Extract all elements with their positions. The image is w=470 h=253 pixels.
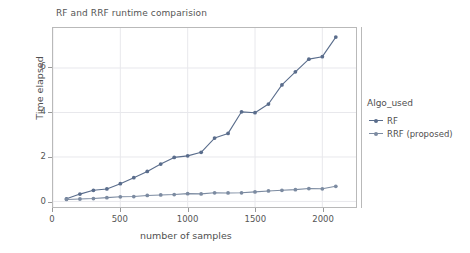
- legend-entry-0[interactable]: RF: [369, 114, 453, 127]
- data-point: [172, 193, 176, 197]
- data-point: [78, 197, 82, 201]
- legend-marker-icon: [369, 116, 383, 126]
- legend-title: Algo_used: [367, 98, 453, 108]
- chart-title: RF and RRF runtime comparision: [56, 8, 207, 18]
- legend-marker-icon: [369, 129, 383, 139]
- x-tick-label: 1500: [235, 214, 275, 224]
- plot-area: [52, 27, 357, 208]
- data-point: [145, 194, 149, 198]
- data-point: [105, 187, 109, 191]
- x-tick-mark: [323, 208, 324, 212]
- x-tick-mark: [52, 208, 53, 212]
- y-tick-mark: [48, 112, 52, 113]
- data-point: [145, 170, 149, 174]
- chart-figure: RF and RRF runtime comparision Time elap…: [0, 0, 470, 253]
- x-tick-label: 1000: [168, 214, 208, 224]
- legend-divider: [361, 27, 362, 208]
- legend: Algo_used RFRRF (proposed): [367, 98, 453, 140]
- legend-label: RF: [387, 116, 398, 126]
- legend-entry-1[interactable]: RRF (proposed): [369, 127, 453, 140]
- data-point: [118, 182, 122, 186]
- data-point: [294, 70, 298, 74]
- y-axis-label: Time elapsed: [34, 38, 45, 138]
- data-point: [280, 188, 284, 192]
- data-point: [334, 184, 338, 188]
- y-tick-mark: [48, 157, 52, 158]
- data-point: [118, 195, 122, 199]
- data-point: [186, 154, 190, 158]
- data-point: [199, 192, 203, 196]
- y-tick-mark: [48, 67, 52, 68]
- x-tick-label: 500: [100, 214, 140, 224]
- data-point: [240, 110, 244, 114]
- data-point: [199, 150, 203, 154]
- data-point: [294, 188, 298, 192]
- x-tick-label: 0: [32, 214, 72, 224]
- data-point: [334, 35, 338, 39]
- data-point: [159, 162, 163, 166]
- plot-canvas: [53, 28, 356, 207]
- data-point: [307, 57, 311, 61]
- data-point: [307, 187, 311, 191]
- legend-label: RRF (proposed): [387, 129, 453, 139]
- data-point: [320, 55, 324, 59]
- data-point: [226, 191, 230, 195]
- data-point: [186, 192, 190, 196]
- x-axis-label: number of samples: [140, 230, 232, 241]
- legend-entries: RFRRF (proposed): [367, 114, 453, 140]
- data-point: [132, 176, 136, 180]
- x-tick-label: 2000: [303, 214, 343, 224]
- y-tick-label: 4: [24, 106, 46, 116]
- data-point: [92, 188, 96, 192]
- data-point: [253, 111, 257, 115]
- y-tick-mark: [48, 202, 52, 203]
- data-point: [172, 156, 176, 160]
- gridlines: [53, 28, 356, 207]
- data-point: [92, 197, 96, 201]
- data-point: [267, 189, 271, 193]
- data-point: [132, 195, 136, 199]
- y-tick-label: 6: [24, 61, 46, 71]
- x-tick-mark: [120, 208, 121, 212]
- series-line-0: [66, 37, 335, 199]
- data-point: [240, 191, 244, 195]
- data-point: [267, 102, 271, 106]
- data-point: [213, 136, 217, 140]
- y-tick-label: 0: [24, 196, 46, 206]
- data-point: [280, 83, 284, 87]
- data-point: [253, 190, 257, 194]
- y-tick-label: 2: [24, 151, 46, 161]
- data-point: [320, 187, 324, 191]
- data-point: [65, 198, 69, 202]
- data-point: [213, 191, 217, 195]
- x-tick-mark: [255, 208, 256, 212]
- data-series-layer: [65, 35, 338, 201]
- data-point: [226, 132, 230, 136]
- x-tick-mark: [188, 208, 189, 212]
- data-point: [159, 193, 163, 197]
- data-point: [78, 192, 82, 196]
- data-point: [105, 196, 109, 200]
